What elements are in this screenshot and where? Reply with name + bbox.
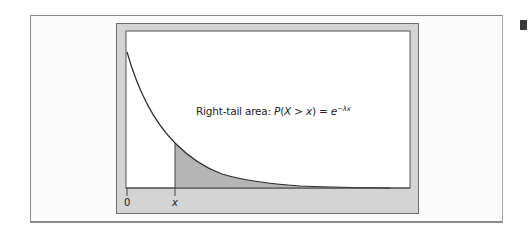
x-marker-label: x bbox=[172, 197, 178, 208]
exponential-density-plot bbox=[0, 0, 529, 234]
right-tail-annotation: Right-tail area: P(X > x) = e−λx bbox=[196, 105, 351, 117]
page-edge-marker bbox=[520, 20, 527, 30]
origin-label: 0 bbox=[124, 197, 130, 208]
